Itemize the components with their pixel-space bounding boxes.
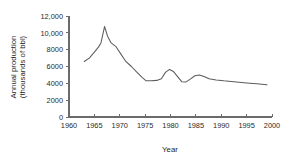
y-tick-label: 6000	[47, 62, 63, 71]
y-tick-label: 2000	[47, 96, 63, 105]
x-tick-label: 1970	[112, 121, 128, 130]
y-tick-label: 8000	[47, 45, 63, 54]
x-axis-tick-labels: 196019651970197519801985199019952000	[61, 121, 280, 130]
x-axis-title: Year	[162, 145, 178, 154]
y-tick-label: 12,000	[40, 12, 63, 21]
x-tick-label: 1975	[137, 121, 153, 130]
x-tick-label: 1980	[162, 121, 178, 130]
y-axis-title-line2: (thousands of bbl)	[18, 35, 27, 98]
x-tick-label: 1990	[213, 121, 229, 130]
y-axis-tick-labels: 0200040006000800010,00012,000	[40, 12, 63, 122]
y-axis-title-line1: Annual production	[9, 36, 18, 99]
x-tick-label: 1965	[86, 121, 102, 130]
x-tick-label: 1985	[188, 121, 204, 130]
x-tick-label: 2000	[264, 121, 280, 130]
x-tick-label: 1995	[238, 121, 254, 130]
production-line-series	[84, 27, 267, 85]
y-tick-label: 10,000	[40, 29, 63, 38]
chart-figure: 0200040006000800010,00012,000 1960196519…	[0, 0, 293, 157]
y-tick-label: 4000	[47, 79, 63, 88]
x-tick-label: 1960	[61, 121, 77, 130]
line-chart: 0200040006000800010,00012,000 1960196519…	[0, 0, 293, 157]
